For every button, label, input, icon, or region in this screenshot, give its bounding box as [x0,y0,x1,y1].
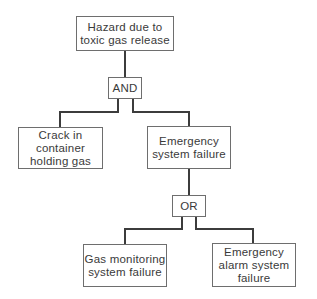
connector-or-right-horizontal [195,228,254,230]
connector-or-to-gas-monitoring [124,228,126,245]
alarm-system-event-label: Emergency alarm system failure [219,246,290,285]
top-event-box: Hazard due to toxic gas release [76,16,174,51]
connector-and-left-horizontal [59,111,119,113]
crack-event-label: Crack in container holding gas [30,129,91,168]
gas-monitoring-event-label: Gas monitoring system failure [85,253,166,279]
top-event-label: Hazard due to toxic gas release [80,21,170,47]
connector-and-to-crack [59,111,61,128]
emergency-system-event-label: Emergency system failure [152,135,226,161]
connector-emergency-to-or [188,168,190,196]
or-gate-label: OR [180,200,198,213]
connector-or-to-alarm [252,228,254,244]
connector-and-to-emergency [188,111,190,127]
gas-monitoring-event-box: Gas monitoring system failure [83,244,167,287]
and-gate: AND [108,77,142,99]
emergency-system-event-box: Emergency system failure [147,126,231,169]
or-gate: OR [172,195,206,217]
crack-event-box: Crack in container holding gas [18,127,103,169]
and-gate-label: AND [113,82,138,95]
connector-or-left-horizontal [124,228,183,230]
alarm-system-event-box: Emergency alarm system failure [212,243,296,287]
connector-and-right-horizontal [132,111,190,113]
connector-top-to-and [124,50,126,77]
